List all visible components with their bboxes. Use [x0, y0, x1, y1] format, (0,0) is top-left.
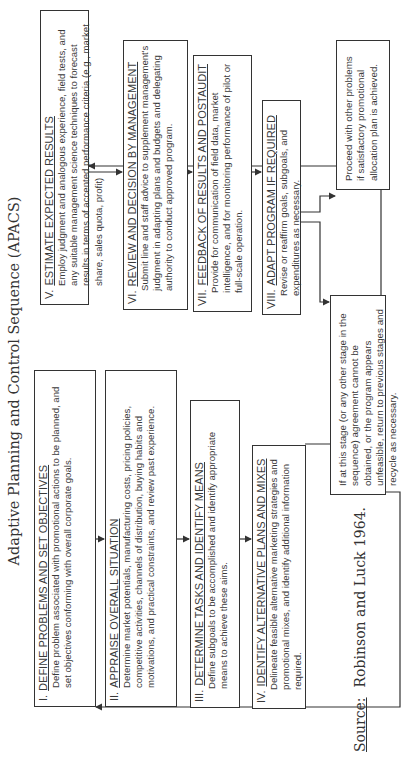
step-number: III.	[193, 690, 205, 702]
step-heading: IDENTIFY ALTERNATIVE PLANS AND MIXES	[255, 459, 267, 687]
step-number: VI.	[126, 291, 138, 304]
step-box-vi: VI.REVIEW AND DECISION BY MANAGEMENT Sub…	[123, 40, 188, 310]
step-heading: REVIEW AND DECISION BY MANAGEMENT	[126, 62, 138, 287]
step-heading: DEFINE PROBLEMS AND SET OBJECTIVES	[37, 465, 49, 691]
arrow-viii-to-proceed	[300, 196, 335, 212]
outcome-proceed-box: Proceed with other problems if satisfact…	[336, 40, 390, 190]
step-heading: ESTIMATE EXPECTED RESULTS	[43, 116, 55, 286]
step-number: I.	[37, 695, 49, 701]
step-heading: DETERMINE TASKS AND IDENTIFY MEANS	[193, 462, 205, 686]
source-citation: Source:Robinson and Luck 1964.	[352, 507, 368, 752]
step-description: Employ judgment and analogous experience…	[56, 15, 105, 299]
step-number: II.	[108, 692, 120, 701]
step-number: VIII.	[265, 289, 277, 309]
step-description: Provide for communication of field data,…	[209, 60, 246, 306]
step-box-vii: VII.FEEDBACK OF RESULTS AND POSTAUDIT Pr…	[193, 55, 252, 312]
step-heading: APPRAISE OVERALL SITUATION	[108, 519, 120, 688]
step-number: IV.	[255, 691, 267, 703]
step-description: Define subgoals to be accomplished and i…	[206, 405, 230, 702]
step-box-viii: VIII.ADAPT PROGRAM IF REQUIRED Revise or…	[262, 100, 301, 315]
step-box-v: V.ESTIMATE EXPECTED RESULTS Employ judgm…	[40, 10, 89, 305]
outcome-recycle-box: If at this stage (or any other stage in …	[330, 295, 386, 495]
source-label: Source:	[352, 697, 368, 752]
outcome-proceed-text: Proceed with other problems if satisfact…	[343, 49, 380, 181]
diagram-page: Adaptive Planning and Control Sequence (…	[0, 0, 416, 762]
step-box-iv: IV.IDENTIFY ALTERNATIVE PLANS AND MIXES …	[252, 445, 306, 709]
step-description: Delineate feasible alternative marketing…	[268, 450, 305, 703]
step-heading: FEEDBACK OF RESULTS AND POSTAUDIT	[196, 64, 208, 285]
source-text: Robinson and Luck 1964.	[352, 507, 368, 687]
outcome-recycle-text: If at this stage (or any other stage in …	[337, 304, 399, 486]
arrow-viii-to-recycle	[300, 222, 329, 302]
step-number: VII.	[196, 289, 208, 306]
step-description: Define problem associated with promotion…	[50, 375, 74, 701]
step-description: Revise or reaffirm goals, subgoals, and …	[278, 105, 302, 309]
step-description: Submit line and staff advice to suppleme…	[139, 45, 176, 304]
step-heading: ADAPT PROGRAM IF REQUIRED	[265, 115, 277, 285]
step-box-ii: II.APPRAISE OVERALL SITUATION Determine …	[105, 370, 177, 707]
step-description: Determine market potentials, manufacturi…	[121, 375, 158, 701]
step-box-iii: III.DETERMINE TASKS AND IDENTIFY MEANS D…	[190, 400, 240, 708]
step-number: V.	[43, 290, 55, 299]
step-box-i: I.DEFINE PROBLEMS AND SET OBJECTIVES Def…	[34, 370, 96, 707]
